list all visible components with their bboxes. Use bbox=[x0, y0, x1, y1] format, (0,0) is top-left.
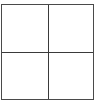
two-by-two-grid bbox=[1, 4, 94, 100]
grid-cell-top-left[interactable] bbox=[2, 5, 49, 53]
grid-cell-top-right[interactable] bbox=[49, 5, 93, 53]
grid-cell-bottom-right[interactable] bbox=[49, 53, 93, 99]
grid-cell-bottom-left[interactable] bbox=[2, 53, 49, 99]
